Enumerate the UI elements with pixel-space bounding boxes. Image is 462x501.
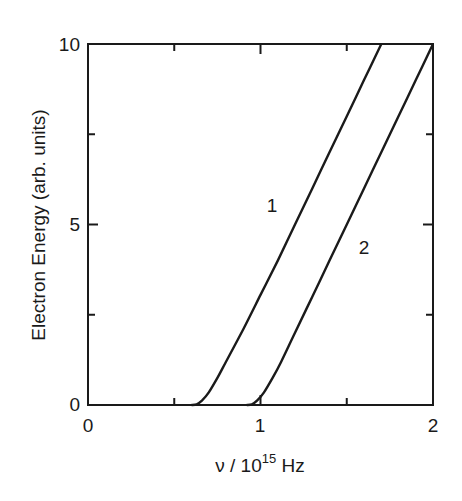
y-tick-label-5: 5 <box>69 214 80 235</box>
x-tick-label-2: 2 <box>428 415 439 436</box>
x-axis-title-main: ν / 10 <box>215 455 261 476</box>
axis-ticks <box>88 44 433 405</box>
x-tick-label-0: 0 <box>83 415 94 436</box>
y-axis-title: Electron Energy (arb. units) <box>28 109 49 340</box>
y-tick-label-0: 0 <box>69 394 80 415</box>
x-axis-title: ν / 1015 Hz <box>215 451 304 476</box>
curve-series-2 <box>247 44 433 405</box>
chart: 0 5 10 0 1 2 1 2 Electron Energy (arb. u… <box>0 0 462 501</box>
curve-label-2: 2 <box>359 237 370 258</box>
plot-frame <box>88 44 433 405</box>
x-tick-label-1: 1 <box>255 415 266 436</box>
x-axis-title-exponent: 15 <box>262 451 276 466</box>
curve-label-1: 1 <box>267 195 278 216</box>
y-tick-label-10: 10 <box>59 34 80 55</box>
x-axis-title-unit: Hz <box>276 455 305 476</box>
